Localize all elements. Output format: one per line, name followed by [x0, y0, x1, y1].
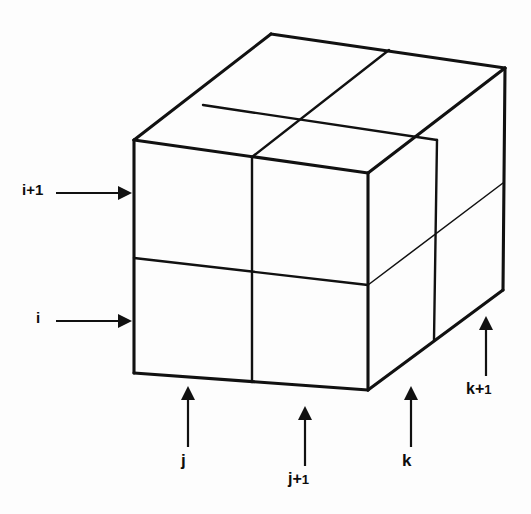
k-arrow-head	[404, 386, 418, 400]
top-face-back-left-edge	[134, 34, 271, 140]
label-k-plus-1-base: k+	[466, 380, 484, 397]
i-arrow-head	[118, 314, 132, 328]
top-face-width-divider	[203, 105, 437, 140]
label-k: k	[402, 452, 411, 469]
label-k-plus-1-sub: 1	[484, 382, 491, 397]
label-j: j	[181, 452, 186, 469]
k-plus-1-arrow	[479, 316, 493, 376]
j-arrow	[181, 386, 195, 447]
j-plus-1-arrow	[298, 406, 312, 466]
top-face-depth-divider	[252, 50, 389, 157]
j-plus-1-arrow-head	[298, 406, 312, 420]
j-arrow-head	[181, 386, 195, 400]
label-i-plus-1-text: i+1	[22, 181, 43, 198]
i-arrow	[56, 314, 132, 328]
cube-diagram-svg	[0, 0, 531, 514]
right-face-back-edge	[503, 68, 505, 290]
i-plus-1-arrow-head	[118, 186, 132, 200]
right-face-column-divider	[434, 140, 437, 340]
label-k-plus-1: k+1	[466, 381, 492, 397]
k-arrow	[404, 386, 418, 447]
k-plus-1-arrow-head	[479, 316, 493, 330]
i-plus-1-arrow	[56, 186, 132, 200]
top-face-group	[134, 34, 505, 173]
label-i-plus-1: i+1	[22, 182, 43, 197]
label-j-text: j	[181, 451, 186, 470]
annotation-arrows-group	[56, 186, 493, 466]
front-face-group	[134, 140, 368, 390]
label-j-plus-1-base: j+	[288, 470, 302, 487]
label-i: i	[36, 310, 40, 325]
label-j-plus-1-sub: 1	[302, 472, 309, 487]
figure-canvas: i+1 i j j+1 k k+1	[0, 0, 531, 514]
label-j-plus-1: j+1	[288, 471, 309, 487]
label-k-text: k	[402, 451, 411, 470]
label-i-text: i	[36, 309, 40, 326]
right-face-group	[368, 68, 505, 390]
